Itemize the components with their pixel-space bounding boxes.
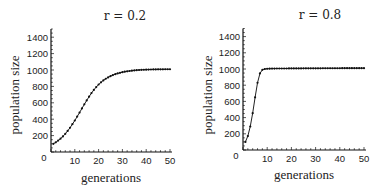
data-point [363,67,365,69]
data-line [53,69,170,144]
data-point [298,67,300,69]
y-tick-label: 1000 [219,64,240,75]
data-point [86,99,88,101]
x-tick-label: 50 [359,153,370,164]
x-axis-label: generations [274,167,334,182]
data-point [293,67,295,69]
data-point [145,69,147,71]
data-point [95,86,97,88]
data-point [273,67,275,69]
data-point [167,68,169,70]
data-point [88,96,90,98]
data-point [353,67,355,69]
data-point [319,67,321,69]
data-point [143,69,145,71]
plot-area: 20040060080010001200140001020304050 [27,29,175,166]
data-point [121,71,123,73]
data-point [295,67,297,69]
data-point [152,68,154,70]
data-point [140,69,142,71]
data-point [244,141,246,143]
data-point [315,67,317,69]
data-point [147,68,149,70]
data-point [346,67,348,69]
data-point [128,70,130,72]
data-point [119,72,121,74]
data-point [344,67,346,69]
y-tick-label: 1200 [219,47,240,58]
data-point [164,68,166,70]
chart-title: r = 0.2 [104,9,147,23]
y-axis-label: population size [7,55,22,134]
y-tick-label: 600 [32,97,48,108]
data-point [256,82,258,84]
y-tick-label: 1400 [219,31,240,42]
data-point [339,67,341,69]
x-tick-label: 30 [310,153,321,164]
data-line [245,68,364,142]
data-point [93,89,95,91]
data-point [69,127,71,129]
data-point [300,67,302,69]
chart-title: r = 0.8 [299,8,342,22]
data-point [302,67,304,69]
data-point [159,68,161,70]
data-point [288,67,290,69]
data-point [55,141,57,143]
y-tick-label: 200 [224,128,240,139]
data-point [269,68,271,70]
data-point [278,67,280,69]
x-axis-label: generations [81,170,141,185]
data-point [329,67,331,69]
data-point [107,76,109,78]
data-point [162,68,164,70]
data-point [109,75,111,77]
data-point [247,135,249,137]
x-tick-label: 0 [41,152,46,163]
data-point [52,143,54,145]
y-tick-label: 1400 [27,32,48,43]
y-tick-label: 600 [224,96,240,107]
x-tick-label: 20 [93,155,104,166]
y-tick-label: 400 [32,114,48,125]
data-point [317,67,319,69]
data-point [264,68,266,70]
data-point [259,72,261,74]
y-axis-label: population size [200,55,215,134]
y-tick-label: 1200 [27,48,48,59]
y-tick-label: 800 [32,81,48,92]
data-point [307,67,309,69]
data-point [133,69,135,71]
data-point [117,72,119,74]
data-point [150,68,152,70]
data-point [62,135,64,137]
data-point [281,67,283,69]
data-point [136,69,138,71]
data-point [360,67,362,69]
data-point [348,67,350,69]
data-point [155,68,157,70]
data-point [331,67,333,69]
y-tick-label: 1000 [27,65,48,76]
data-point [305,67,307,69]
x-tick-label: 10 [70,155,81,166]
data-point [358,67,360,69]
data-point [124,71,126,73]
x-tick-label: 30 [117,155,128,166]
data-point [74,119,76,121]
x-tick-label: 50 [165,155,176,166]
data-point [312,67,314,69]
data-point [78,111,80,113]
data-point [126,70,128,72]
data-point [310,67,312,69]
data-point [114,73,116,75]
data-point [276,67,278,69]
y-tick-label: 400 [224,112,240,123]
data-point [324,67,326,69]
data-point [112,74,114,76]
data-point [271,67,273,69]
data-point [59,138,61,140]
data-point [98,83,100,85]
data-point [261,69,263,71]
chart-r-0-2: r = 0.2 20040060080010001200140001020304… [7,9,175,185]
